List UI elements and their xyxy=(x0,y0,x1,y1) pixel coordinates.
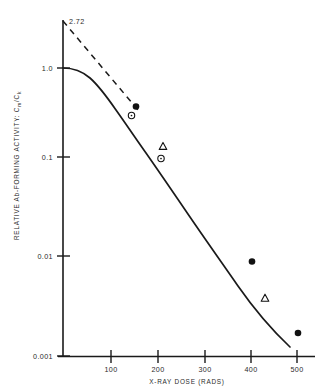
y-axis-title-slash: /C xyxy=(13,94,20,102)
marker-filled-circle-2 xyxy=(249,258,256,265)
chart-figure: 1.0 0.1 0.01 0.001 100 200 300 400 500 X… xyxy=(0,0,326,390)
y-tick-label-1: 0.1 xyxy=(42,153,53,162)
marker-open-circle-2 xyxy=(158,155,164,161)
y-tick-label-0: 1.0 xyxy=(42,64,53,73)
x-tick-label-3: 400 xyxy=(244,365,257,374)
open-circle-dot-1 xyxy=(131,115,133,117)
plot-background xyxy=(0,0,326,390)
y-axis-title-main: RELATIVE Ab-FORMING ACTIVITY: C xyxy=(13,107,20,240)
x-axis-title: X-RAY DOSE (RADS) xyxy=(149,378,224,386)
y-axis-title-sub-k: k xyxy=(17,91,22,94)
open-circle-dot-2 xyxy=(160,158,162,160)
x-tick-label-4: 500 xyxy=(290,365,303,374)
xray-dose-response-plot: 1.0 0.1 0.01 0.001 100 200 300 400 500 X… xyxy=(0,0,326,390)
marker-filled-circle-3 xyxy=(295,330,302,337)
x-tick-label-2: 300 xyxy=(198,365,211,374)
x-tick-label-1: 200 xyxy=(151,365,164,374)
marker-open-circle-1 xyxy=(128,112,134,118)
y-tick-label-2: 0.01 xyxy=(37,252,53,261)
annotation-intercept-label: 2.72 xyxy=(69,17,85,26)
marker-filled-circle-1 xyxy=(133,103,140,110)
x-tick-label-0: 100 xyxy=(104,365,117,374)
y-tick-label-3: 0.001 xyxy=(33,352,53,361)
